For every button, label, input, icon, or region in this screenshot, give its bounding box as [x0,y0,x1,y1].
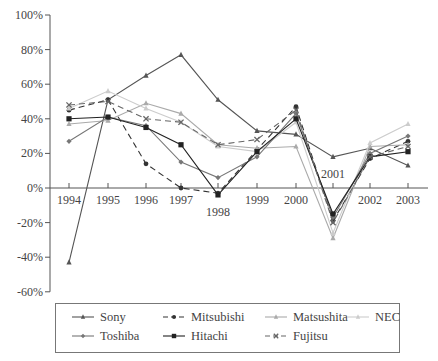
series-line [69,91,408,233]
square-marker [172,334,176,338]
square-marker [254,149,259,154]
series-sony [66,52,410,265]
legend: SonyMitsubishiMatsushitaNECToshibaHitach… [56,304,401,353]
square-marker [105,114,110,119]
x-tick-label: 1998 [206,205,230,219]
triangle-marker [105,88,110,93]
x-tick-label: 2002 [358,193,382,207]
x-tick-label: 2003 [396,193,420,207]
series-nec [66,88,410,235]
y-tick-label: -60% [17,285,43,299]
legend-label: Toshiba [100,329,140,343]
legend-label: NEC [375,310,400,324]
y-tick-label: 40% [21,112,43,126]
y-tick-label: -20% [17,216,43,230]
series-group [66,52,410,265]
circle-marker [172,315,176,319]
triangle-marker [178,52,183,57]
triangle-marker [143,100,148,105]
line-chart: 100%80%60%40%20%0%-20%-40%-60%1994199519… [0,0,438,361]
y-tick-label: 60% [21,77,43,91]
legend-label: Mitsubishi [191,310,245,324]
circle-marker [144,161,149,166]
y-tick-label: 20% [21,146,43,160]
x-tick-label: 1995 [96,193,120,207]
x-tick-label: 1997 [169,193,193,207]
x-tick-label: 1996 [134,193,158,207]
square-marker [178,142,183,147]
triangle-marker [293,143,298,148]
x-tick-label: 1994 [57,193,81,207]
square-marker [215,192,220,197]
square-marker [405,149,410,154]
triangle-marker [254,128,259,133]
legend-label: Sony [100,310,126,324]
diamond-marker [66,139,71,144]
y-tick-label: 100% [15,8,43,22]
legend-label: Hitachi [191,329,228,343]
triangle-marker [66,259,71,264]
x-tick-label: 2001 [321,167,345,181]
y-tick-label: 80% [21,43,43,57]
triangle-marker [405,121,410,126]
y-tick-label: -40% [17,250,43,264]
legend-label: Matsushita [293,310,348,324]
diamond-marker [215,175,220,180]
square-marker [66,116,71,121]
x-tick-label: 2000 [284,193,308,207]
circle-marker [179,186,184,191]
diamond-marker [405,134,410,139]
y-tick-label: 0% [27,181,43,195]
square-marker [143,125,148,130]
triangle-marker [330,235,335,240]
legend-label: Fujitsu [293,329,328,343]
square-marker [330,211,335,216]
x-tick-label: 1999 [245,193,269,207]
series-line [69,55,408,263]
